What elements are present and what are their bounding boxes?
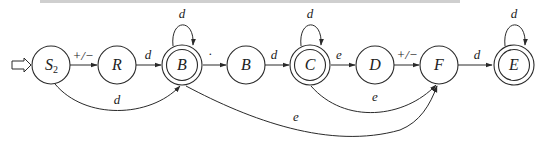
state-diagram: S2 R B B C D F E +/− d d d · d d e +/− e… (0, 0, 539, 141)
svg-text:R: R (111, 56, 122, 73)
state-E-accepting: E (494, 45, 534, 85)
loop-E (505, 25, 525, 46)
svg-text:D: D (368, 56, 381, 73)
label-S2-B1: d (114, 92, 121, 107)
label-F-E: d (474, 47, 481, 62)
loop-C (301, 25, 321, 46)
edge-B1-F (186, 86, 437, 136)
label-B1-loop: d (179, 6, 186, 21)
svg-text:B: B (241, 56, 251, 73)
svg-text:F: F (433, 56, 444, 73)
state-R: R (98, 46, 136, 84)
svg-text:C: C (305, 56, 316, 73)
state-F: F (420, 46, 458, 84)
state-C-accepting: C (290, 45, 330, 85)
label-B1-F: e (293, 109, 299, 124)
label-B1-B2: · (208, 46, 211, 61)
label-R-B1: d (145, 47, 152, 62)
label-E-loop: d (511, 6, 518, 21)
label-C-loop: d (307, 6, 314, 21)
label-C-F: e (372, 89, 378, 104)
label-D-F: +/− (396, 47, 417, 62)
state-B-accepting: B (162, 45, 202, 85)
loop-B1 (173, 25, 193, 46)
state-S2: S2 (32, 46, 70, 84)
svg-text:B: B (177, 56, 187, 73)
label-S2-R: +/− (72, 48, 93, 63)
label-B2-C: d (271, 47, 278, 62)
cropped-header-text (40, 0, 460, 3)
start-arrow-icon (12, 58, 31, 72)
svg-text:E: E (508, 56, 519, 73)
label-C-D: e (336, 47, 342, 62)
state-B: B (227, 46, 265, 84)
state-D: D (356, 46, 394, 84)
